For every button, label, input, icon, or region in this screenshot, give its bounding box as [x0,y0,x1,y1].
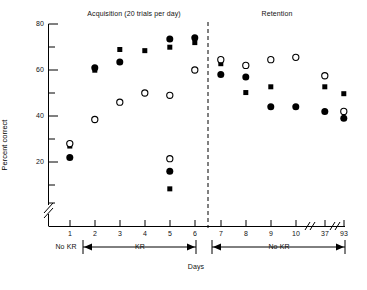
bracket-label-no-kr-right: No KR [268,243,289,250]
x-axis-label: Days [188,263,204,270]
y-tick-label-80: 80 [36,20,44,27]
series-open-circle [67,54,347,162]
x-tick-label-6: 6 [193,230,197,237]
series-filled-circle [66,34,347,174]
x-tick-label-5: 5 [168,230,172,237]
y-tick-label-60: 60 [36,66,44,73]
x-tick-label-37: 37 [321,230,329,237]
x-tick-label-8: 8 [244,230,248,237]
x-tick [70,220,344,227]
x-tick-label-7: 7 [219,230,223,237]
x-tick-label-93: 93 [340,230,348,237]
bracket-label-no-kr-left: No KR [55,243,76,250]
series-filled-square [67,40,346,191]
y-tick-label-20: 20 [36,158,44,165]
bracket-label-kr: KR [135,243,145,250]
x-tick-label-10: 10 [292,230,300,237]
x-tick-label-1: 1 [68,230,72,237]
chart-figure: Acquisition (20 trials per day) Retentio… [0,0,367,290]
x-tick-label-3: 3 [118,230,122,237]
panel-title-retention: Retention [262,10,293,17]
y-axis-label: Percent correct [0,120,9,171]
x-tick-label-2: 2 [93,230,97,237]
panel-title-acquisition: Acquisition (20 trials per day) [87,10,180,17]
x-tick-label-4: 4 [143,230,147,237]
y-tick-label-40: 40 [36,112,44,119]
x-tick-label-9: 9 [269,230,273,237]
